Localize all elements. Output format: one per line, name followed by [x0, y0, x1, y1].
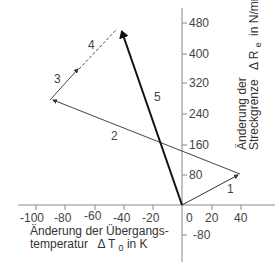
x-tick-label: -100 [20, 211, 44, 225]
x-axis-title-prefix: temperatur [30, 237, 88, 251]
x-axis-tick-labels: -100 -80 -60 -40 -20 0 20 40 [20, 209, 248, 225]
x-axis-title-sub: 0 [119, 243, 124, 253]
segment-label-1: 1 [227, 182, 234, 196]
y-tick-label: -80 [193, 228, 211, 242]
y-axis-title-line2-text: Streckgrenze [247, 79, 261, 150]
y-tick-label: 480 [189, 16, 209, 30]
segment-4 [79, 29, 117, 69]
x-axis-title-line1: Änderung der Übergangs- [30, 224, 169, 238]
y-axis-title-line2: Streckgrenze Δ R e in N/mm² [247, 0, 264, 150]
segment-label-3: 3 [54, 72, 61, 86]
segment-2 [53, 100, 240, 174]
y-tick-label: 160 [189, 138, 209, 152]
x-tick-label: -80 [54, 211, 72, 225]
y-axis-title-symbol: Δ R [247, 50, 261, 70]
segment-5 [122, 32, 182, 205]
x-tick-label: 40 [234, 211, 248, 225]
y-tick-label: 240 [189, 107, 209, 121]
y-axis-title: Änderung der Streckgrenze Δ R e in N/mm² [235, 0, 264, 150]
segment-label-2: 2 [111, 129, 118, 143]
y-tick-label: 320 [189, 76, 209, 90]
x-tick-label: 0 [186, 211, 193, 225]
y-tick-label: 400 [189, 47, 209, 61]
y-axis-title-unit: in N/mm² [247, 0, 261, 36]
x-tick-label: -40 [113, 211, 131, 225]
x-axis-title-line2: temperatur Δ T 0 in K [30, 237, 148, 254]
vector-diagram: -100 -80 -60 -40 -20 0 20 40 480 400 320… [0, 0, 275, 275]
x-tick-label: -20 [142, 211, 160, 225]
x-axis-ticks [36, 205, 241, 210]
x-tick-label: -60 [84, 209, 102, 223]
y-axis-title-sub: e [253, 42, 263, 47]
x-axis-title-symbol: Δ T [97, 237, 116, 251]
x-tick-label: 20 [205, 211, 219, 225]
segment-label-5: 5 [154, 90, 161, 104]
segment-label-4: 4 [88, 38, 95, 52]
y-axis-tick-labels: 480 400 320 240 160 80 -80 [189, 16, 211, 242]
x-axis-title-suffix: in K [127, 237, 148, 251]
y-tick-label: 80 [189, 168, 203, 182]
